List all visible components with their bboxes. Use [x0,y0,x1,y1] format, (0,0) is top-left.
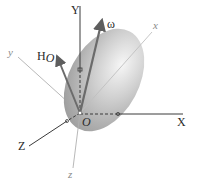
label-origin: O [82,115,91,129]
rigid-body-diagram: Y ω x y HO O X Z z [0,0,197,186]
label-omega: ω [107,17,115,31]
ellipsoid-body [47,15,160,145]
label-H: HO [37,49,55,65]
label-y: y [7,46,13,58]
label-z: z [67,168,73,180]
label-x: x [152,19,158,31]
label-Y: Y [71,3,80,17]
fixed-axis-Z-outer [29,121,67,146]
label-Z: Z [18,139,25,153]
label-X: X [177,115,186,129]
